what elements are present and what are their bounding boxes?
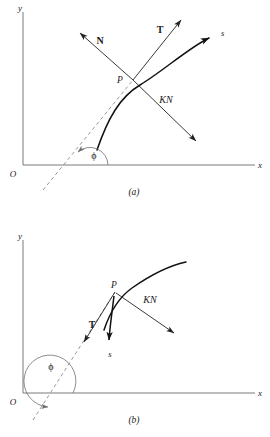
origin-label-b: O: [10, 397, 17, 407]
normal-vector-a: [80, 33, 133, 80]
point-label-a: P: [116, 75, 123, 85]
point-label-b: P: [110, 280, 117, 290]
panel-caption-a: (a): [128, 187, 139, 198]
curvature-force-label-b: KN: [142, 294, 158, 305]
arc-length-arrow-b: [109, 296, 114, 340]
panel-b-axes: [23, 240, 255, 393]
figure-root: x y O s N T KN P ϕ (a) x y: [0, 0, 270, 437]
tangent-vector-b: [84, 292, 115, 342]
panel-caption-b: (b): [128, 415, 139, 426]
y-axis-label-b: y: [17, 231, 22, 241]
k-scalar-b: KN: [142, 294, 158, 305]
tangent-vector-label-b: T: [89, 319, 96, 330]
curvature-force-vector-a: [133, 80, 196, 141]
origin-label-a: O: [10, 169, 17, 179]
arc-length-label-a: s: [221, 28, 225, 38]
panel-a-graphic: x y O s N T KN P ϕ (a) x y: [0, 0, 270, 437]
y-axis-label-a: y: [17, 3, 22, 13]
x-axis-label-a: x: [257, 160, 262, 170]
k-scalar-a: KN: [158, 94, 174, 105]
curvature-force-label-a: KN: [158, 94, 174, 105]
tangent-vector-label-a: T: [157, 24, 164, 35]
phi-label-b: ϕ: [48, 361, 53, 372]
phi-label-a: ϕ: [91, 150, 96, 161]
x-axis-label-b: x: [257, 388, 262, 398]
tangent-extension-dashed-a: [43, 80, 133, 190]
normal-vector-label-a: N: [96, 35, 104, 46]
arc-length-label-b: s: [108, 349, 112, 359]
